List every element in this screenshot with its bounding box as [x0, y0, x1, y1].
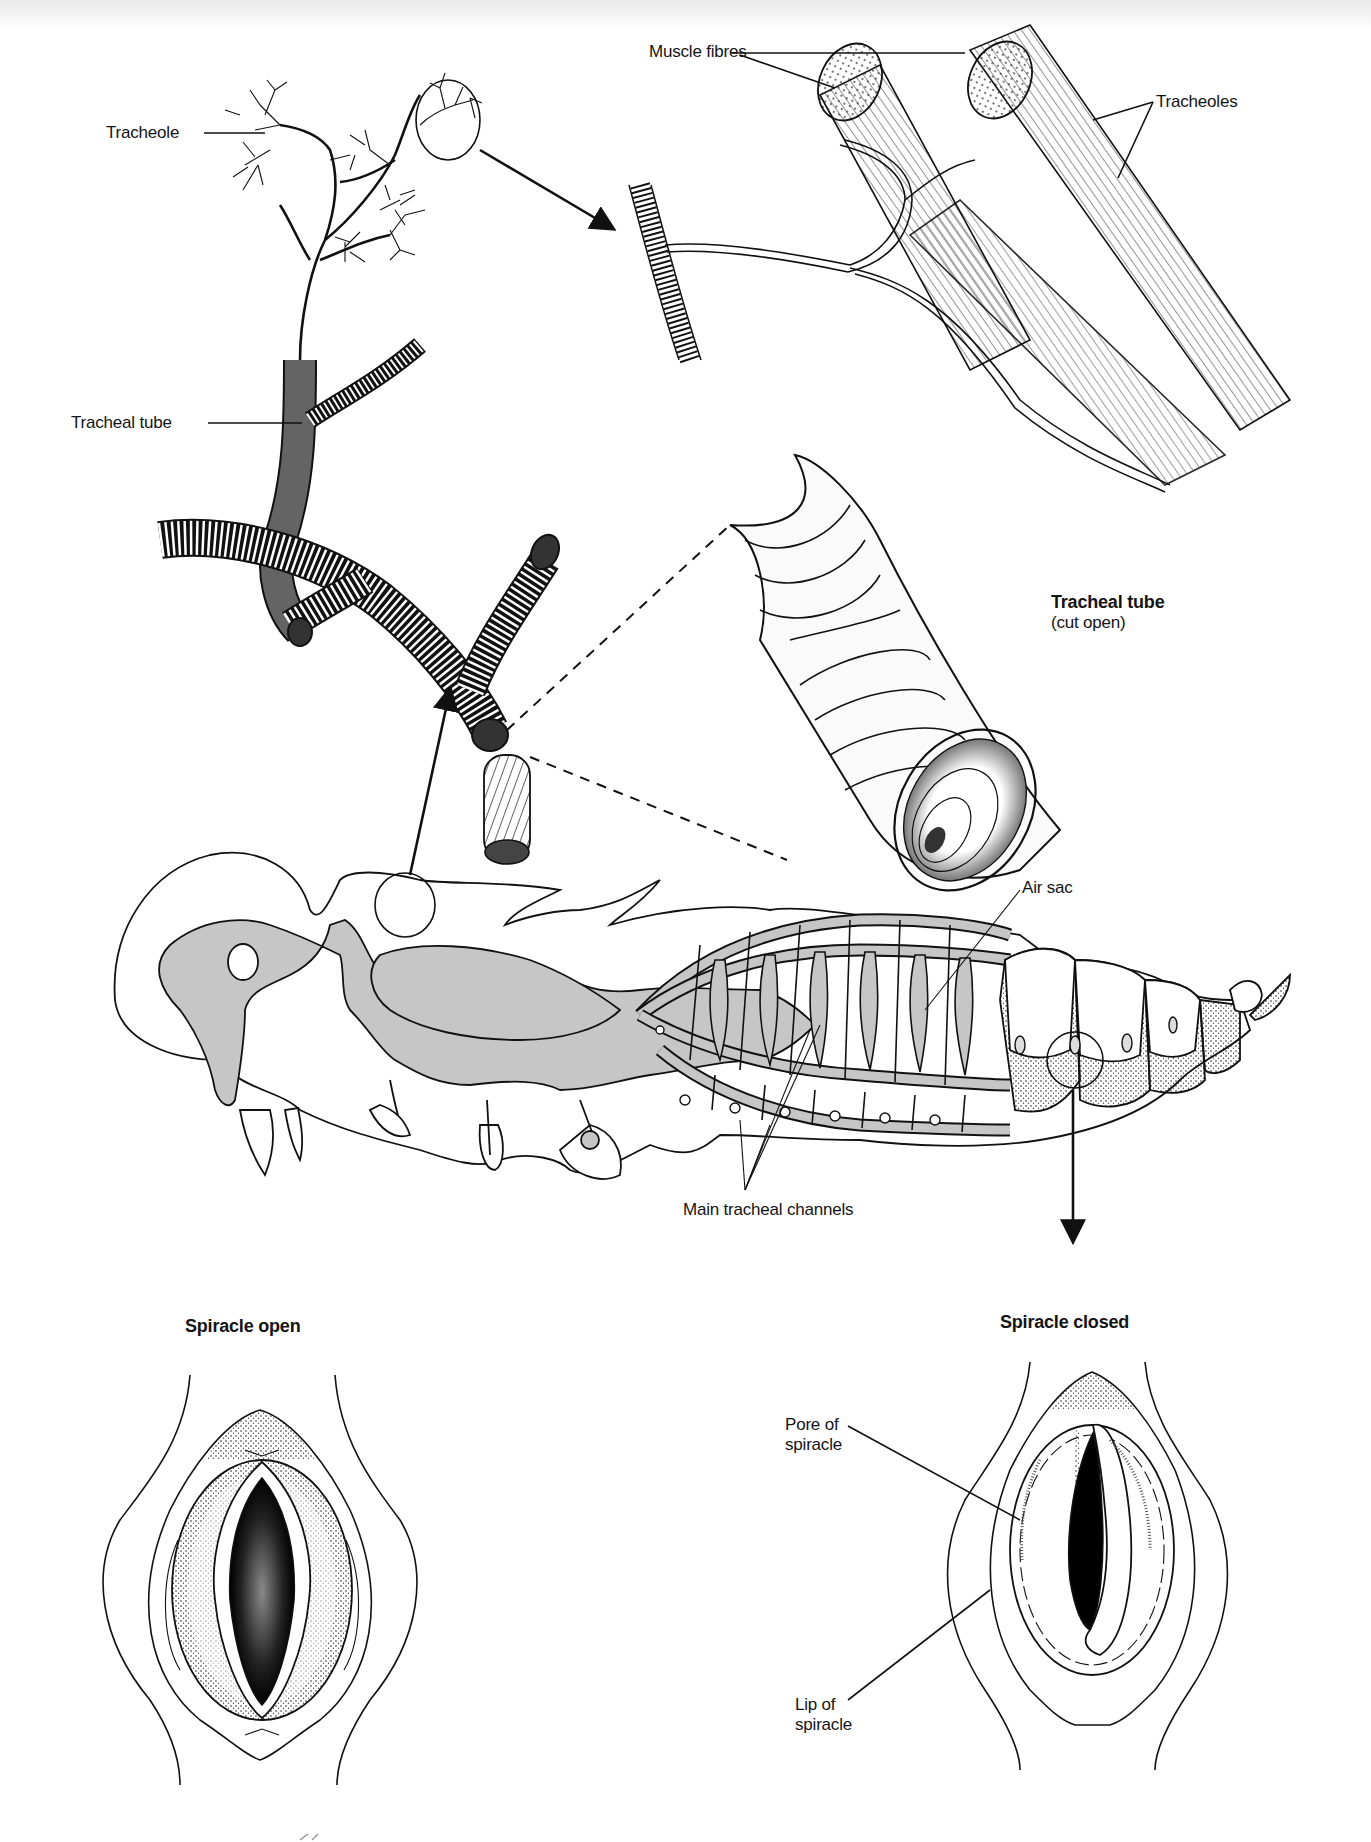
insect-body-drawing — [115, 853, 1290, 1240]
spiracle-open-drawing — [103, 1375, 417, 1785]
label-tracheal-tube-cut-sub: (cut open) — [1051, 613, 1126, 633]
label-air-sac: Air sac — [1022, 878, 1073, 898]
label-spiracle-closed: Spiracle closed — [1000, 1312, 1129, 1332]
label-tracheal-tube-cut-title: Tracheal tube — [1051, 592, 1164, 612]
page-bottom-artifacts — [300, 1834, 318, 1840]
label-tracheal-tube: Tracheal tube — [71, 413, 172, 433]
tracheal-tube-branch-drawing — [160, 345, 787, 875]
label-tracheoles: Tracheoles — [1156, 92, 1237, 112]
label-lip-of-spiracle: Lip of spiracle — [795, 1695, 890, 1735]
spiracle-closed-drawing — [848, 1362, 1227, 1770]
label-pore-of-spiracle: Pore of spiracle — [785, 1415, 885, 1455]
tracheole-network-drawing — [204, 73, 612, 360]
label-main-tracheal-channels: Main tracheal channels — [683, 1200, 853, 1220]
magnify-arrow-1 — [480, 150, 612, 228]
magnify-arrow-2 — [410, 690, 450, 875]
label-tracheole: Tracheole — [106, 123, 179, 143]
label-spiracle-open: Spiracle open — [185, 1316, 300, 1336]
tracheal-tube-cutaway-drawing — [730, 455, 1064, 916]
tracheal-system-figure — [0, 0, 1371, 1842]
label-muscle-fibres: Muscle fibres — [649, 42, 747, 62]
